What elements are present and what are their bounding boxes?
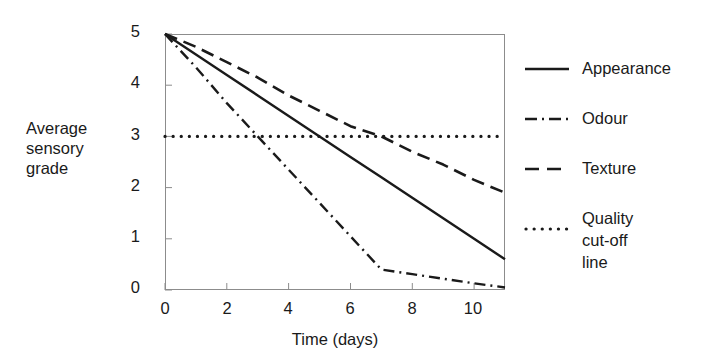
series-line-appearance bbox=[165, 34, 505, 259]
y-tick-label-1: 1 bbox=[118, 227, 140, 246]
dotted-line-icon bbox=[524, 218, 570, 240]
series-line-texture bbox=[165, 34, 505, 193]
y-tick-label-0: 0 bbox=[118, 278, 140, 297]
x-tick-label-4: 4 bbox=[273, 299, 303, 318]
dashed-line-icon bbox=[524, 158, 570, 180]
legend-label-quality-cutoff: Quality cut-off line bbox=[582, 207, 633, 273]
legend-label-appearance: Appearance bbox=[582, 57, 671, 79]
y-tick-label-3: 3 bbox=[118, 125, 140, 144]
series-line-odour bbox=[165, 34, 505, 287]
x-tick-label-0: 0 bbox=[150, 299, 180, 318]
plot-area bbox=[165, 34, 505, 290]
tick-marks bbox=[165, 34, 474, 290]
x-tick-label-2: 2 bbox=[212, 299, 242, 318]
x-axis-title: Time (days) bbox=[265, 330, 405, 349]
dash-dot-line-icon bbox=[524, 108, 570, 130]
legend-label-odour: Odour bbox=[582, 107, 628, 129]
x-tick-label-6: 6 bbox=[335, 299, 365, 318]
solid-line-icon bbox=[524, 58, 570, 80]
data-series-layer bbox=[165, 34, 505, 290]
y-tick-label-2: 2 bbox=[118, 176, 140, 195]
y-tick-label-4: 4 bbox=[118, 73, 140, 92]
y-tick-label-5: 5 bbox=[118, 22, 140, 41]
sensory-grade-line-chart: Average sensory grade 5 4 3 2 1 0 0 2 4 … bbox=[0, 0, 726, 362]
x-tick-label-8: 8 bbox=[397, 299, 427, 318]
legend-label-texture: Texture bbox=[582, 157, 636, 179]
x-tick-label-10: 10 bbox=[458, 299, 488, 318]
